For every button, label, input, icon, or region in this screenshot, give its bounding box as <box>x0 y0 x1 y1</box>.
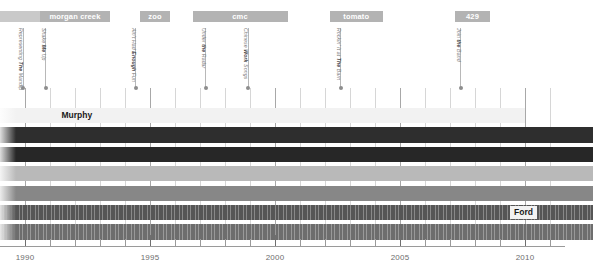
axis-tick-minor-1993 <box>100 239 101 246</box>
release-dot <box>339 86 343 90</box>
axis-tick-minor-1998 <box>225 239 226 246</box>
bar-left-fade <box>0 205 16 220</box>
member-bar-3 <box>0 166 593 181</box>
axis-tick-minor-2001 <box>300 239 301 246</box>
release-title: Shake Me Up <box>41 28 47 61</box>
release-title: Chinese Work Songs <box>243 28 249 79</box>
axis-tick-minor-1994 <box>125 239 126 246</box>
axis-tick-minor-1999 <box>250 239 251 246</box>
member-bar-ford <box>0 205 593 220</box>
axis-tick-minor-1996 <box>175 239 176 246</box>
bar-left-fade <box>0 127 16 142</box>
axis-tick-major-1995 <box>150 235 151 246</box>
record-label-badge-morgan-creek: morgan creek <box>40 11 110 22</box>
axis-tick-minor-2009 <box>500 239 501 246</box>
bar-left-fade <box>0 166 16 181</box>
axis-year-label-1990: 1990 <box>5 253 45 262</box>
member-bar-6 <box>0 224 593 239</box>
axis-tick-major-2005 <box>400 235 401 246</box>
axis-tick-major-2010 <box>525 235 526 246</box>
axis-tick-minor-2011 <box>550 239 551 246</box>
bar-left-fade <box>0 186 16 201</box>
release-title: Rockin' It at The Barn <box>336 28 342 80</box>
axis-tick-minor-2002 <box>325 239 326 246</box>
release-title: Under the Radar <box>201 28 207 68</box>
release-dot <box>44 86 48 90</box>
axis-tick-minor-1992 <box>75 239 76 246</box>
axis-year-label-2010: 2010 <box>505 253 545 262</box>
record-label-badge-cmc: cmc <box>193 11 288 22</box>
axis-tick-minor-2008 <box>475 239 476 246</box>
axis-tick-minor-1991 <box>50 239 51 246</box>
axis-year-label-2005: 2005 <box>380 253 420 262</box>
axis-tick-major-1990 <box>25 235 26 246</box>
bar-hatch-pattern <box>0 205 593 220</box>
axis-tick-minor-2007 <box>450 239 451 246</box>
record-label-badge-429: 429 <box>455 11 490 22</box>
release-dot <box>134 86 138 90</box>
record-label-badge-unlabeled <box>0 11 40 22</box>
bar-left-fade <box>0 147 16 162</box>
release-title: Ain't Had Enough Fun <box>131 28 137 82</box>
axis-line <box>0 246 565 247</box>
member-bar-4 <box>0 186 593 201</box>
release-dot <box>204 86 208 90</box>
axis-tick-minor-2006 <box>425 239 426 246</box>
axis-year-label-2000: 2000 <box>255 253 295 262</box>
axis-year-label-1995: 1995 <box>130 253 170 262</box>
axis-tick-minor-2004 <box>375 239 376 246</box>
member-name-tag-ford: Ford <box>510 206 537 219</box>
member-name-tag-murphy: Murphy <box>58 109 97 122</box>
record-label-badge-zoo: zoo <box>140 11 170 22</box>
bar-left-fade <box>0 224 16 239</box>
bar-hatch-pattern <box>0 224 593 239</box>
axis-tick-minor-1997 <box>200 239 201 246</box>
release-dot <box>459 86 463 90</box>
release-title: Join the Band <box>456 28 462 62</box>
bar-left-fade <box>0 108 16 123</box>
member-bar-2 <box>0 147 593 162</box>
release-title: Representing The Mandip <box>18 28 24 90</box>
member-bar-1 <box>0 127 593 142</box>
axis-tick-major-2000 <box>275 235 276 246</box>
axis-tick-minor-2003 <box>350 239 351 246</box>
record-label-badge-tomato: tomato <box>330 11 383 22</box>
